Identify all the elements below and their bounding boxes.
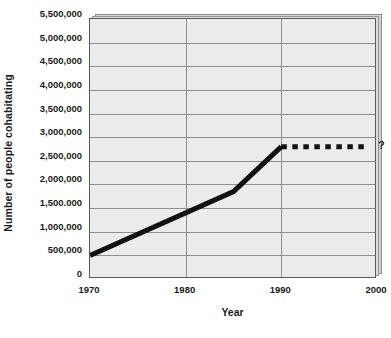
y-tick-label: 4,000,000: [40, 80, 82, 90]
x-axis-tick-labels: 1970198019902000: [0, 284, 391, 298]
x-axis-title: Year: [89, 306, 376, 318]
y-tick-label: 1,000,000: [40, 222, 82, 232]
y-axis-title: Number of people cohabitating: [0, 10, 16, 296]
y-tick-label: 2,500,000: [40, 151, 82, 161]
line-chart-figure: Number of people cohabitating 0500,0001,…: [0, 0, 391, 338]
plot-area: [89, 18, 376, 278]
data-series-layer: [90, 19, 376, 278]
y-tick-label: 5,500,000: [40, 9, 82, 19]
x-tick-label: 1980: [174, 284, 195, 296]
x-tick-label: 1990: [270, 284, 291, 296]
question-mark-annotation: ?: [378, 139, 385, 151]
y-tick-label: 3,000,000: [40, 127, 82, 137]
y-tick-label: 500,000: [48, 245, 82, 255]
y-tick-label: 4,500,000: [40, 56, 82, 66]
y-tick-label: 3,500,000: [40, 104, 82, 114]
series-line-observed: [90, 147, 281, 256]
y-axis-tick-labels: 0500,0001,000,0001,500.0002,000,0002,500…: [18, 14, 86, 274]
x-tick-label: 1970: [78, 284, 99, 296]
y-tick-label: 5,000,000: [40, 33, 82, 43]
y-tick-label: 2,000,000: [40, 174, 82, 184]
y-tick-label: 1,500.000: [40, 198, 82, 208]
y-tick-label: 0: [77, 269, 82, 279]
x-tick-label: 2000: [365, 284, 386, 296]
